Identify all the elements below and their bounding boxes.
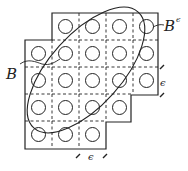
covering-diagram: B B ϵ ϵ ϵ bbox=[0, 0, 188, 171]
ball-circle bbox=[140, 20, 154, 34]
epsilon-dimension-right: ϵ bbox=[160, 65, 166, 97]
epsilon-dimension-bottom: ϵ bbox=[76, 151, 107, 162]
ball-circle bbox=[113, 47, 127, 61]
ball-circle bbox=[86, 101, 100, 115]
set-b-eps-superscript: ϵ bbox=[176, 15, 181, 24]
ball-circle bbox=[59, 101, 73, 115]
ball-circle bbox=[140, 47, 154, 61]
ball-circle bbox=[32, 47, 46, 61]
epsilon-right-label: ϵ bbox=[160, 77, 166, 88]
ball-circle bbox=[59, 74, 73, 88]
set-b-label: B bbox=[5, 65, 17, 83]
ball-circle bbox=[32, 128, 46, 142]
ball-circle bbox=[59, 47, 73, 61]
set-b-eps-label: B bbox=[163, 17, 175, 35]
ball-circle bbox=[86, 74, 100, 88]
ball-circle bbox=[140, 74, 154, 88]
ball-circle bbox=[86, 47, 100, 61]
ball-circle bbox=[86, 128, 100, 142]
ball-circle bbox=[113, 101, 127, 115]
ball-circle bbox=[113, 20, 127, 34]
epsilon-bottom-label: ϵ bbox=[88, 151, 94, 162]
ball-circles bbox=[32, 20, 154, 142]
ball-circle bbox=[86, 20, 100, 34]
ball-circle bbox=[59, 20, 73, 34]
ball-circle bbox=[32, 101, 46, 115]
